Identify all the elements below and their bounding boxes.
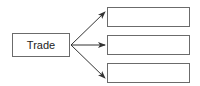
arrow-to-box-3 bbox=[71, 45, 105, 78]
arrow-to-box-1 bbox=[71, 12, 105, 45]
target-box-3 bbox=[107, 63, 190, 83]
target-box-1 bbox=[107, 7, 190, 27]
source-label: Trade bbox=[27, 39, 55, 51]
target-box-2 bbox=[107, 35, 190, 55]
source-box-trade: Trade bbox=[12, 33, 70, 57]
